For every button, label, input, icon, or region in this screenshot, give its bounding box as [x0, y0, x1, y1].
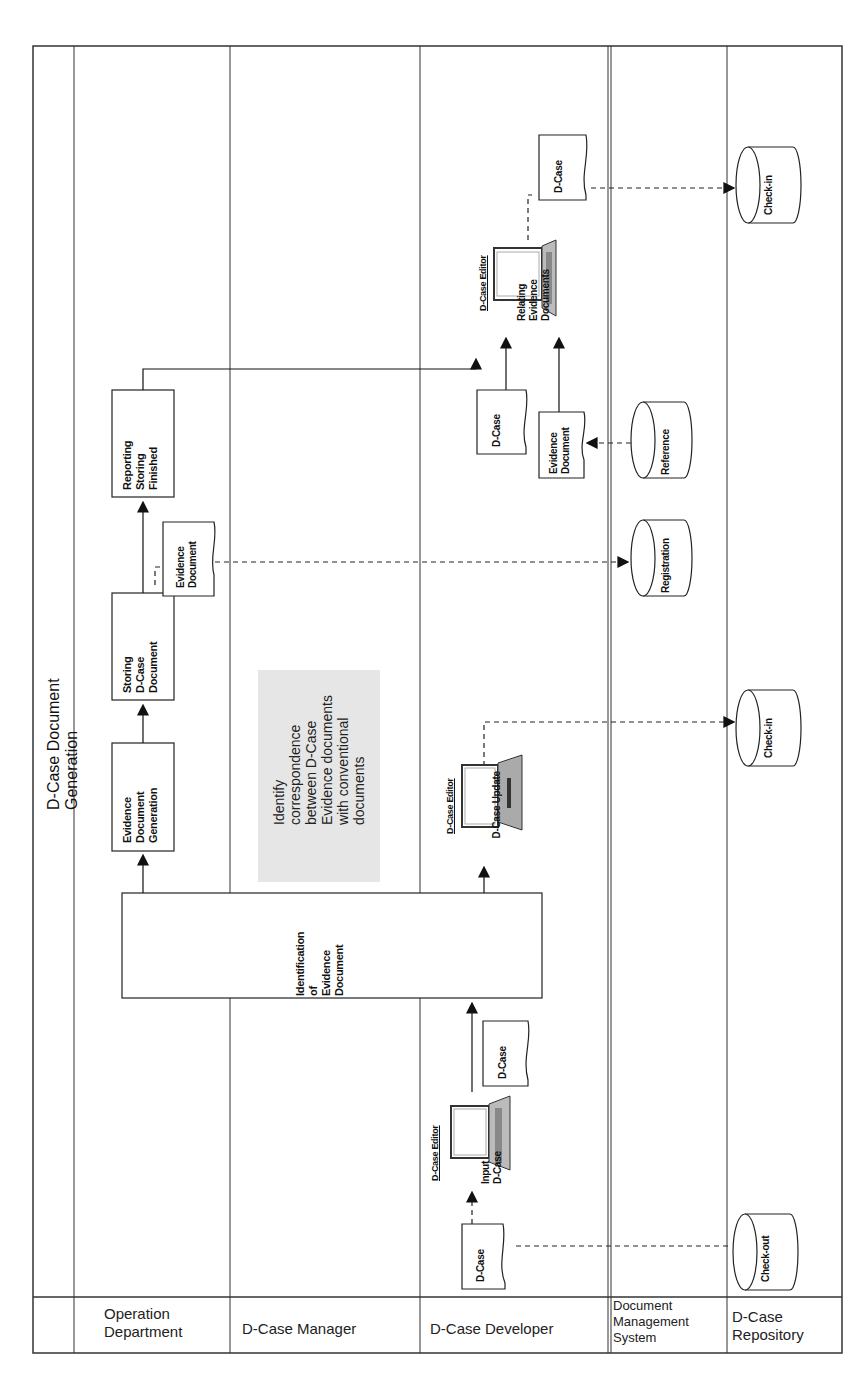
datastore-checkout: Check-out — [760, 1222, 774, 1282]
lane-label-repository: D-Case Repository — [732, 1308, 804, 1344]
lane-label-dms: Document Management System — [613, 1298, 689, 1346]
editor-update-caption: D-Case Update — [491, 759, 504, 839]
diagram-canvas — [0, 0, 858, 1397]
editor-input-caption: Input D-Case — [480, 1138, 506, 1184]
editor-input-label: D-Case Editor — [429, 1111, 441, 1181]
lane-label-developer: D-Case Developer — [430, 1320, 553, 1338]
box-identification: Identification of Evidence Document — [294, 906, 346, 996]
diagram-title: D-Case Document Generation — [45, 610, 65, 810]
datastore-checkin-mid: Check-in — [763, 698, 777, 758]
editor-update-label: D-Case Editor — [444, 764, 456, 834]
editor-relating-label: D-Case Editor — [477, 241, 489, 311]
lane-label-manager: D-Case Manager — [242, 1320, 356, 1338]
datastore-checkin-top: Check-in — [763, 155, 777, 215]
lane-label-operation: Operation Department — [104, 1305, 182, 1341]
dcase-doc-relate: D-Case — [491, 397, 505, 447]
dcase-doc-mid: D-Case — [497, 1029, 511, 1079]
editor-relating-caption: Relating Evidence Documents — [516, 251, 554, 321]
datastore-reference: Reference — [660, 405, 674, 475]
dcase-doc-top: D-Case — [553, 143, 567, 193]
datastore-registration: Registration — [660, 523, 674, 593]
evidence-doc-op: Evidence Document — [175, 528, 201, 588]
evidence-doc-dev: Evidence Document — [548, 416, 574, 474]
box-reporting: Reporting Storing Finished — [121, 400, 161, 490]
dcase-doc-bottom: D-Case — [475, 1232, 489, 1282]
box-storing: Storing D-Case Document — [121, 603, 161, 693]
correspondence-note: Identify correspondence between D-Case E… — [271, 629, 369, 825]
box-generation: Evidence Document Generation — [121, 753, 161, 843]
